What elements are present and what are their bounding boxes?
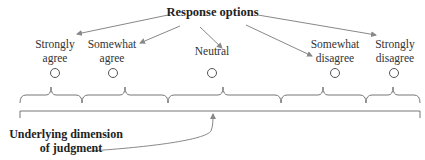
dimension-label-line2: of judgment <box>2 141 130 155</box>
underlying-dimension-label: Underlying dimension of judgment <box>2 127 130 155</box>
arrows <box>77 15 376 56</box>
dimension-label-line1: Underlying dimension <box>2 127 130 141</box>
braces <box>20 87 420 103</box>
